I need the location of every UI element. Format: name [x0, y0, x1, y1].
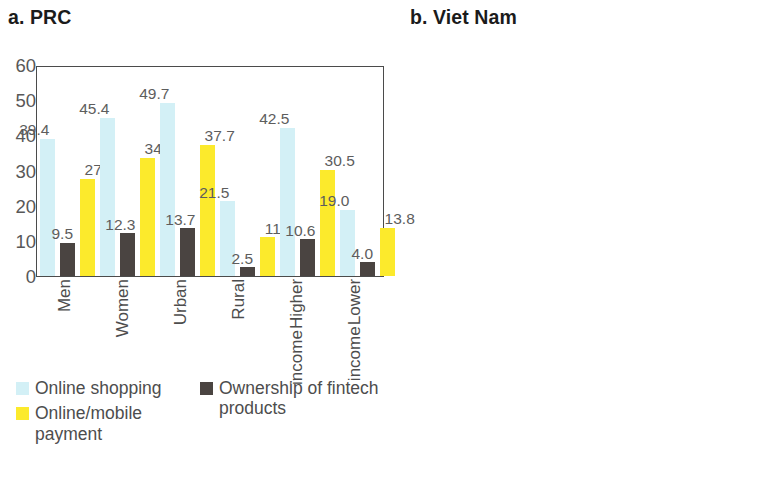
- bar-group: 19.04.013.8: [337, 67, 397, 276]
- legend-item[interactable]: Ownership of fintech products: [200, 378, 390, 419]
- y-axis-tick: 30: [15, 161, 36, 183]
- x-axis-label-group: Men: [36, 279, 94, 375]
- bar[interactable]: 37.7: [200, 145, 215, 276]
- bar[interactable]: 13.8: [380, 228, 395, 276]
- x-axis-label: Lowerincome: [346, 279, 364, 381]
- legend-swatch-icon: [16, 382, 29, 395]
- x-axis-label-group: Urban: [152, 279, 210, 375]
- x-axis-label: Higherincome: [288, 279, 306, 385]
- x-axis-label: Urban: [172, 279, 190, 325]
- bar-value-label: 2.5: [231, 251, 253, 267]
- legend-prc-column-1: Online shoppingOnline/mobile payment: [16, 378, 196, 449]
- bar[interactable]: 42.5: [280, 128, 295, 276]
- bar[interactable]: 30.5: [320, 170, 335, 276]
- x-axis-label-line: Lower: [346, 279, 364, 325]
- bar[interactable]: 12.3: [120, 233, 135, 276]
- y-axis-tick: 20: [15, 196, 36, 218]
- legend-item[interactable]: Online shopping: [16, 378, 196, 398]
- legend-label: Online shopping: [35, 378, 161, 398]
- x-axis-label-group: Higherincome: [268, 279, 326, 375]
- bar[interactable]: 19.0: [340, 210, 355, 276]
- bar[interactable]: 39.4: [40, 139, 55, 276]
- y-axis-tick: 50: [15, 90, 36, 112]
- y-axis-tick: 10: [15, 231, 36, 253]
- x-axis-label: Men: [56, 279, 74, 312]
- x-axis-label-line: income: [346, 326, 364, 381]
- bar[interactable]: 9.5: [60, 243, 75, 276]
- bar[interactable]: 2.5: [240, 267, 255, 276]
- y-axis-tick: 0: [26, 266, 36, 288]
- bar[interactable]: 27.9: [80, 179, 95, 276]
- x-axis-labels-prc: MenWomenUrbanRuralHigherincomeLowerincom…: [36, 279, 384, 375]
- bar[interactable]: 11.2: [260, 237, 275, 276]
- panel-b-title: b. Viet Nam: [410, 6, 517, 29]
- bar[interactable]: 34.0: [140, 158, 155, 276]
- x-axis-label: Rural: [230, 279, 248, 320]
- bar-group: 21.52.511.2: [217, 67, 277, 276]
- panel-viet-nam: b. Viet Nam 9080706050403020100 66.818.0…: [396, 0, 778, 491]
- bar-group: 39.49.527.9: [37, 67, 97, 276]
- bar-value-label: 9.5: [51, 226, 73, 242]
- legend-prc-column-2: Ownership of fintech products: [200, 378, 390, 424]
- bar-group: 49.713.737.7: [157, 67, 217, 276]
- bar-group: 42.510.630.5: [277, 67, 337, 276]
- bar[interactable]: 13.7: [180, 228, 195, 276]
- x-axis-label-group: Women: [94, 279, 152, 375]
- bar[interactable]: 45.4: [100, 118, 115, 276]
- x-axis-label-line: Higher: [288, 279, 306, 329]
- panel-prc: a. PRC 6050403020100 39.49.527.945.412.3…: [0, 0, 396, 491]
- x-axis-label-group: Lowerincome: [326, 279, 384, 375]
- y-axis-tick: 60: [15, 55, 36, 77]
- bar-value-label: 4.0: [351, 246, 373, 262]
- y-axis-tick: 40: [15, 125, 36, 147]
- legend-item[interactable]: Online/mobile payment: [16, 403, 196, 444]
- x-axis-label-line: income: [288, 330, 306, 385]
- bar[interactable]: 4.0: [360, 262, 375, 276]
- x-axis-label: Women: [114, 279, 132, 337]
- bar[interactable]: 49.7: [160, 103, 175, 276]
- panel-a-title: a. PRC: [8, 6, 71, 29]
- bar[interactable]: 10.6: [300, 239, 315, 276]
- legend-swatch-icon: [200, 382, 213, 395]
- y-axis-prc: 6050403020100: [0, 66, 36, 277]
- bar-group: 45.412.334.0: [97, 67, 157, 276]
- x-axis-label-group: Rural: [210, 279, 268, 375]
- chart-page: a. PRC 6050403020100 39.49.527.945.412.3…: [0, 0, 778, 491]
- bar-groups-prc: 39.49.527.945.412.334.049.713.737.721.52…: [37, 67, 383, 276]
- legend-label: Online/mobile payment: [35, 403, 196, 444]
- bar[interactable]: 21.5: [220, 201, 235, 276]
- legend-label: Ownership of fintech products: [219, 378, 390, 419]
- plot-area-prc: 39.49.527.945.412.334.049.713.737.721.52…: [36, 66, 384, 277]
- legend-swatch-icon: [16, 407, 29, 420]
